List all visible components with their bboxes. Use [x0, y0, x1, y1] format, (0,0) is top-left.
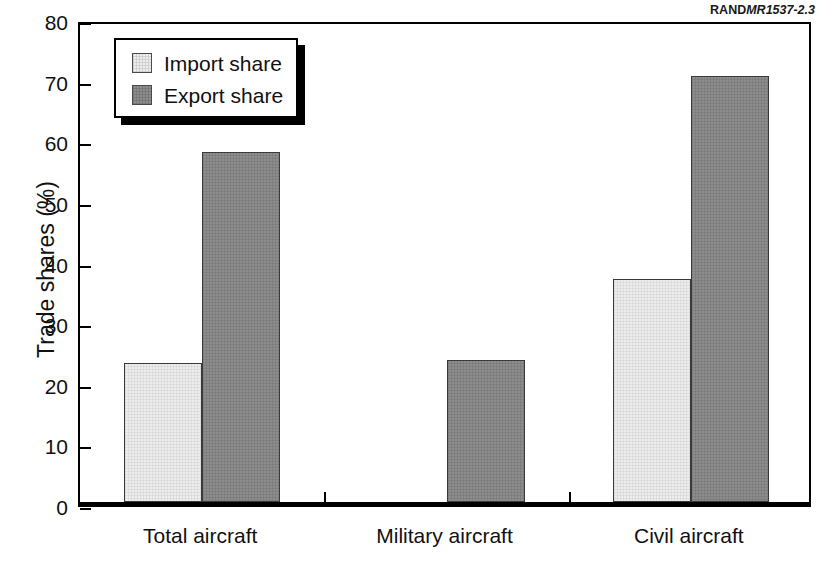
- legend-item-import[interactable]: Import share: [132, 47, 296, 79]
- x-axis-label-0: Total aircraft: [80, 525, 320, 546]
- y-axis-tick: [80, 144, 91, 146]
- legend-swatch-export-icon: [132, 85, 152, 105]
- legend-swatch-import-icon: [132, 53, 152, 73]
- legend-item-export[interactable]: Export share: [132, 79, 296, 111]
- rand-document-number: MR1537-2.3: [746, 3, 815, 17]
- bar-export-2: [691, 76, 769, 502]
- x-axis-tick: [569, 492, 571, 502]
- y-axis-tick: [80, 508, 91, 510]
- y-axis-tick: [80, 447, 91, 449]
- bar-import-2: [613, 279, 691, 502]
- x-axis-label-1: Military aircraft: [325, 525, 565, 546]
- chart-legend: Import shareExport share: [114, 38, 298, 118]
- y-axis-tick: [80, 326, 91, 328]
- y-axis-tick: [80, 266, 91, 268]
- y-axis-title: Trade shares (%): [33, 120, 60, 420]
- y-axis-tick: [80, 84, 91, 86]
- bar-export-0: [202, 152, 280, 502]
- legend-label: Import share: [164, 53, 282, 74]
- y-axis-tick-label: 10: [12, 436, 68, 457]
- x-axis-label-2: Civil aircraft: [569, 525, 809, 546]
- y-axis-tick-label: 80: [12, 12, 68, 33]
- y-axis-tick: [80, 205, 91, 207]
- bar-import-0: [124, 363, 202, 502]
- y-axis-tick-label: 0: [12, 497, 68, 518]
- rand-logo-text: RAND: [710, 3, 746, 17]
- source-credit: RANDMR1537-2.3: [710, 3, 815, 17]
- y-axis-tick-label: 70: [12, 73, 68, 94]
- legend-label: Export share: [164, 85, 283, 106]
- bar-export-1: [447, 360, 525, 502]
- x-axis-tick: [324, 492, 326, 502]
- chart-page: RANDMR1537-2.3 Trade shares (%) 01020304…: [0, 0, 826, 580]
- y-axis-tick: [80, 23, 91, 25]
- y-axis-tick: [80, 387, 91, 389]
